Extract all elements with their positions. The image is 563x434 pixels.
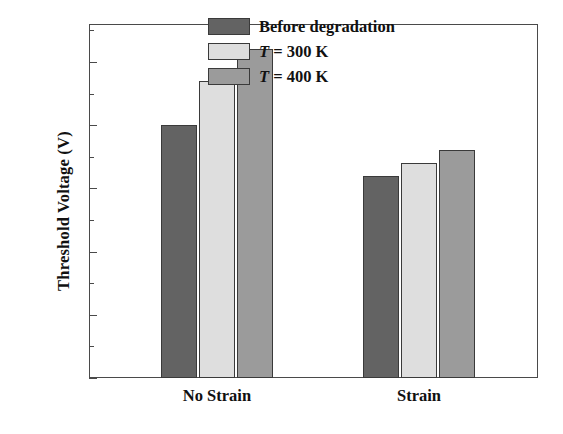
y-tick-major [89,125,97,126]
y-tick-major [89,62,97,63]
bar [401,163,437,378]
bar [237,49,273,378]
bar [199,81,235,378]
legend-swatch [208,18,250,35]
y-tick-minor [89,220,94,221]
legend-label: T = 300 K [259,42,328,62]
bar [161,125,197,378]
legend-swatch [208,68,250,85]
y-tick-minor [89,157,94,158]
legend-label: Before degradation [259,17,395,37]
y-tick-major [89,378,97,379]
bar [363,176,399,378]
x-tick-label: No Strain [127,386,307,406]
y-tick-minor [89,346,94,347]
bar [439,150,475,378]
y-axis-title: Threshold Voltage (V) [54,61,74,361]
legend-item: T = 300 K [208,39,438,64]
y-tick-minor [89,283,94,284]
y-tick-minor [89,30,94,31]
y-tick-major [89,188,97,189]
y-tick-minor [89,94,94,95]
y-tick-major [89,315,97,316]
y-tick-major [89,252,97,253]
legend-label: T = 400 K [259,67,328,87]
legend-swatch [208,43,250,60]
legend-item: T = 400 K [208,64,438,89]
legend-item: Before degradation [208,14,438,39]
chart-legend: Before degradationT = 300 KT = 400 K [208,14,438,89]
bar-chart-figure: Threshold Voltage (V) 0.00.10.20.30.40.5… [0,0,563,434]
x-tick-label: Strain [329,386,509,406]
